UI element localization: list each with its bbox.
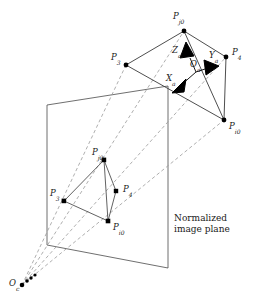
label-camera-Oc: Oc [9, 279, 19, 288]
label-image-Pi0: Pi0 [113, 223, 124, 232]
ray-convergence-dot-3 [33, 273, 36, 276]
vertex-image-P4 [114, 189, 118, 193]
projection-diagram-svg [0, 0, 267, 306]
normalized-image-plane-caption: Normalized image plane [174, 213, 230, 235]
normalized-image-plane [47, 86, 168, 268]
label-axis-Y: Ya [209, 51, 218, 60]
world-diagonal-Pj0-Pi0 [184, 31, 224, 120]
label-axis-X: Xa [166, 74, 176, 83]
label-image-Pj0: Pj0 [92, 148, 103, 157]
ray-convergence-dot-2 [29, 276, 32, 279]
label-world-Pj0: Pj0 [173, 12, 184, 21]
vertex-world-P3 [124, 63, 129, 68]
vertex-image-P3 [62, 199, 67, 204]
vertex-image-Pi0 [106, 219, 111, 224]
ray-convergence-dot-1 [25, 279, 29, 283]
world-edge-Pi0-P4 [224, 57, 226, 120]
caption-line-2: image plane [174, 224, 230, 235]
label-origin-Oa: Oa [190, 60, 201, 69]
label-image-P4: P4 [123, 185, 133, 194]
label-axis-Z: Za [172, 46, 181, 55]
label-image-P3: P3 [50, 189, 60, 198]
axis-Z-arrowhead [180, 42, 194, 58]
caption-line-1: Normalized [174, 213, 230, 224]
label-world-Pi0: Pi0 [229, 122, 240, 131]
camera-center-group [20, 273, 37, 287]
vertex-world-Pi0 [222, 118, 227, 123]
label-world-P4: P4 [232, 48, 242, 57]
label-world-P3: P3 [111, 53, 121, 62]
vertex-world-P4 [224, 55, 229, 60]
vertex-world-Pj0 [182, 29, 187, 34]
vertex-camera-Oc [20, 283, 25, 288]
figure-root: Pj0 P3 P4 Pi0 Xa Ya Za Oa Pj0 P3 P4 Pi0 … [0, 0, 267, 306]
